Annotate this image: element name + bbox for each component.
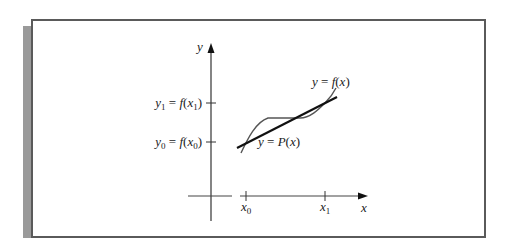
x1-tick-label: x1	[319, 199, 330, 216]
x-axis-label: x	[360, 200, 367, 215]
interpolation-diagram: y x y1 = f(x1) y0 = f(x0) x0 x1 y = f(x)…	[0, 0, 512, 252]
x0-tick-label: x0	[240, 199, 252, 216]
x-axis-arrow-icon	[358, 193, 368, 200]
y0-tick-label: y0 = f(x0)	[153, 134, 202, 151]
curve-P-label: y = P(x)	[256, 134, 300, 149]
curve-f-label: y = f(x)	[310, 74, 350, 89]
y-axis-arrow-icon	[208, 43, 215, 53]
y-axis-label: y	[195, 39, 203, 54]
y1-tick-label: y1 = f(x1)	[153, 95, 202, 112]
